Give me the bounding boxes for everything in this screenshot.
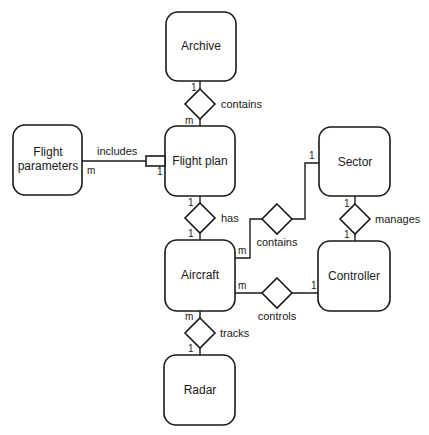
flight-parameters-label-line1: Flight — [33, 145, 63, 159]
contains-sector-label: contains — [257, 236, 298, 248]
entity-flight-plan[interactable]: Flight plan — [165, 126, 235, 196]
entity-controller[interactable]: Controller — [318, 241, 390, 311]
entity-archive[interactable]: Archive — [166, 12, 236, 81]
radar-label: Radar — [184, 383, 217, 397]
card-flightparams: m — [87, 165, 95, 176]
aircraft-label: Aircraft — [181, 268, 220, 282]
card-aircraft-has: 1 — [188, 228, 194, 239]
entity-sector[interactable]: Sector — [319, 127, 390, 196]
manages-label: manages — [375, 213, 421, 225]
includes-connector-box — [146, 156, 165, 166]
flight-parameters-label-line2: parameters — [18, 159, 79, 173]
card-archive: 1 — [191, 82, 197, 93]
controls-diamond — [262, 278, 292, 308]
relationship-archive-contains[interactable]: contains 1 m — [185, 82, 262, 126]
relationship-has[interactable]: has 1 1 — [185, 197, 239, 239]
includes-label: includes — [97, 145, 138, 157]
card-aircraft-controls: m — [238, 280, 246, 291]
archive-label: Archive — [181, 39, 221, 53]
card-sector-contains: 1 — [309, 150, 315, 161]
relationship-tracks[interactable]: tracks m 1 — [185, 311, 250, 354]
card-aircraft-contains: m — [238, 245, 246, 256]
card-controller-manages: 1 — [344, 229, 350, 240]
connectors — [82, 81, 355, 355]
tracks-label: tracks — [220, 327, 250, 339]
relationship-manages[interactable]: manages 1 1 — [340, 198, 421, 240]
entity-radar[interactable]: Radar — [164, 355, 235, 425]
line-contains-sector — [292, 163, 319, 219]
relationship-controls[interactable]: controls m 1 — [238, 278, 317, 322]
card-flightplan-includes: 1 — [157, 166, 163, 177]
card-flightplan: m — [185, 115, 193, 126]
entity-flight-parameters[interactable]: Flight parameters — [13, 125, 82, 195]
contains-sector-diamond — [262, 204, 292, 234]
controls-label: controls — [258, 310, 297, 322]
contains-label: contains — [221, 98, 262, 110]
card-flightplan-has: 1 — [188, 197, 194, 208]
has-label: has — [221, 212, 239, 224]
card-controller-controls: 1 — [311, 280, 317, 291]
card-sector-manages: 1 — [344, 198, 350, 209]
card-radar-tracks: 1 — [188, 343, 194, 354]
card-aircraft-tracks: m — [185, 311, 193, 322]
sector-label: Sector — [338, 155, 373, 169]
entity-aircraft[interactable]: Aircraft — [165, 240, 235, 311]
controller-label: Controller — [328, 269, 380, 283]
er-diagram: Archive Flight plan Flight parameters Se… — [0, 0, 429, 435]
flight-plan-label: Flight plan — [172, 154, 227, 168]
